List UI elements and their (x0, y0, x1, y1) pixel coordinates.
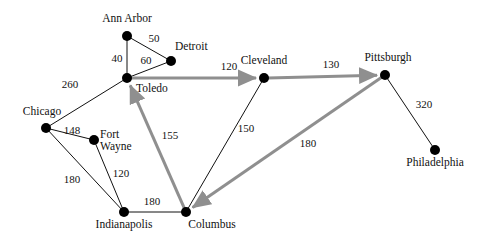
node-label-fort_wayne-line2: Wayne (100, 140, 132, 153)
network-graph-figure: 506040260148180120180150320120130180155 … (0, 0, 485, 243)
graph-node-indianapolis[interactable] (119, 207, 129, 217)
edge-weight-detroit-toledo: 60 (141, 54, 153, 66)
node-label-pittsburgh: Pittsburgh (364, 51, 411, 64)
node-label-cleveland: Cleveland (241, 54, 288, 66)
graph-node-cleveland[interactable] (259, 73, 269, 83)
graph-node-ann_arbor[interactable] (122, 31, 132, 41)
edge-weight-columbus-toledo: 155 (162, 129, 179, 141)
graph-edge-pittsburgh-columbus (193, 77, 382, 207)
edge-weight-toledo-cleveland: 120 (221, 60, 238, 72)
node-label-indianapolis: Indianapolis (96, 218, 153, 231)
graph-node-fort_wayne[interactable] (89, 135, 99, 145)
node-label-columbus: Columbus (188, 218, 236, 230)
graph-node-detroit[interactable] (166, 56, 176, 66)
graph-node-columbus[interactable] (181, 207, 191, 217)
edge-weight-cleveland-pittsburgh: 130 (323, 58, 340, 70)
graph-edge-pittsburgh-philadelphia (387, 78, 433, 146)
node-label-fort_wayne: Fort (100, 128, 120, 140)
node-label-philadelphia: Philadelphia (406, 156, 464, 169)
edge-weight-chicago-toledo: 260 (62, 78, 79, 90)
graph-edge-columbus-cleveland (188, 81, 262, 208)
edge-weight-pittsburgh-philadelphia: 320 (416, 98, 433, 110)
edge-weight-columbus-cleveland: 150 (238, 122, 255, 134)
node-label-ann_arbor: Ann Arbor (102, 12, 152, 24)
graph-edge-chicago-toledo (49, 80, 123, 126)
node-label-detroit: Detroit (175, 40, 208, 52)
edge-weight-ann_arbor-toledo: 40 (112, 52, 124, 64)
edge-weight-chicago-indianapolis: 180 (64, 173, 81, 185)
node-label-chicago: Chicago (23, 105, 62, 118)
graph-node-chicago[interactable] (41, 123, 51, 133)
graph-edge-cleveland-pittsburgh (268, 75, 377, 78)
edge-weight-ann_arbor-detroit: 50 (149, 32, 161, 44)
graph-node-philadelphia[interactable] (430, 145, 440, 155)
edge-weight-pittsburgh-columbus: 180 (300, 137, 317, 149)
graph-node-pittsburgh[interactable] (380, 70, 390, 80)
graph-node-toledo[interactable] (122, 73, 132, 83)
graph-edge-columbus-toledo (130, 85, 184, 208)
edge-weight-indianapolis-columbus: 180 (144, 195, 161, 207)
edge-weight-fort_wayne-indianapolis: 120 (113, 167, 130, 179)
edge-weight-chicago-fort_wayne: 148 (64, 124, 81, 136)
node-label-toledo: Toledo (136, 82, 168, 94)
graph-canvas: 506040260148180120180150320120130180155 … (0, 0, 485, 243)
